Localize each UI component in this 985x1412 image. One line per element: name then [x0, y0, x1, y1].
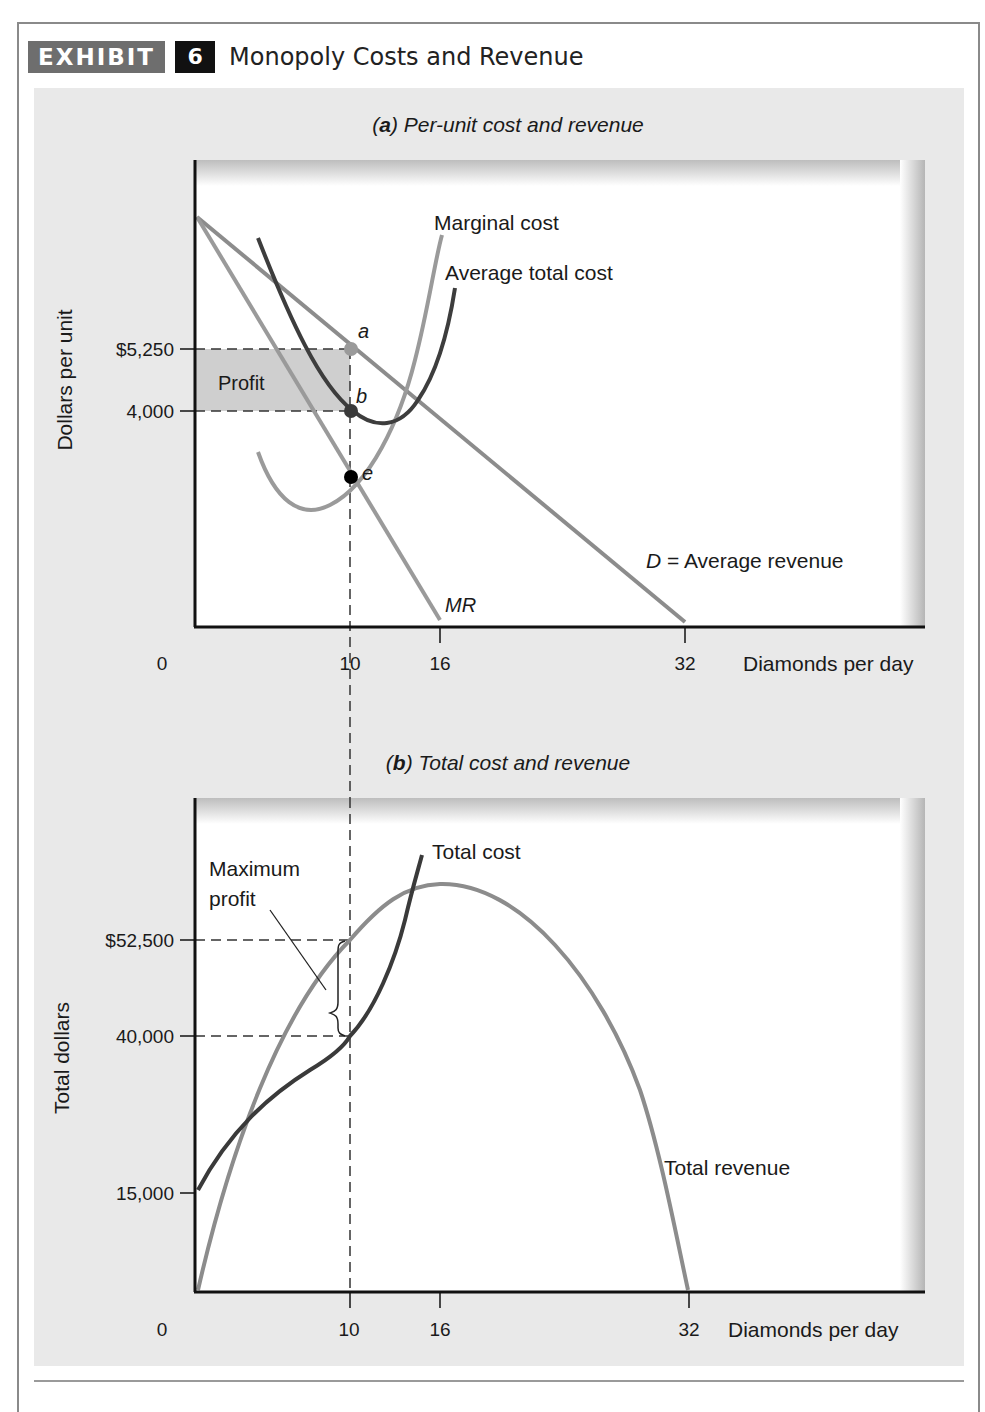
demand-label: D = Average revenue	[646, 549, 844, 572]
x-tick-label-16: 16	[429, 1319, 450, 1340]
chart-a-y-axis-title: Dollars per unit	[53, 309, 76, 450]
x-tick-label-16: 16	[429, 653, 450, 674]
chart-b-title: (b) Total cost and revenue	[386, 751, 630, 774]
y-tick-label-40000: 40,000	[116, 1026, 174, 1047]
point-e-label: e	[362, 462, 373, 484]
max-profit-label-1: Maximum	[209, 857, 300, 880]
plot-shade-top	[195, 160, 925, 186]
max-profit-label-2: profit	[209, 887, 256, 910]
x-tick-label-0: 0	[157, 1319, 168, 1340]
chart-a-x-axis-title: Diamonds per day	[743, 652, 914, 675]
plot-shade-right	[900, 798, 925, 1292]
y-tick-label-15000: 15,000	[116, 1183, 174, 1204]
point-e	[344, 470, 358, 484]
y-tick-label-4000: 4,000	[126, 401, 174, 422]
x-tick-label-32: 32	[674, 653, 695, 674]
y-tick-label-5250: $5,250	[116, 339, 174, 360]
chart-a-title: (a) Per-unit cost and revenue	[372, 113, 644, 136]
chart-b-x-axis-title: Diamonds per day	[728, 1318, 899, 1341]
total-cost-label: Total cost	[432, 840, 521, 863]
point-a-label: a	[358, 320, 369, 342]
point-b-label: b	[356, 385, 367, 407]
chart-b-plot-area	[195, 798, 925, 1292]
chart-b: (b) Total cost and revenue Maximum profi…	[50, 751, 925, 1341]
mr-label: MR	[445, 594, 476, 616]
plot-shade-right	[900, 160, 925, 627]
x-tick-label-0: 0	[157, 653, 168, 674]
point-a	[344, 342, 358, 356]
x-tick-label-32: 32	[678, 1319, 699, 1340]
plot-shade-top	[195, 798, 925, 824]
profit-label: Profit	[218, 372, 265, 394]
total-revenue-label: Total revenue	[664, 1156, 790, 1179]
x-tick-label-10: 10	[339, 653, 360, 674]
y-tick-label-52500: $52,500	[105, 930, 174, 951]
chart-b-y-axis-title: Total dollars	[50, 1002, 73, 1114]
mc-label: Marginal cost	[434, 211, 559, 234]
atc-label: Average total cost	[445, 261, 613, 284]
x-tick-label-10: 10	[338, 1319, 359, 1340]
